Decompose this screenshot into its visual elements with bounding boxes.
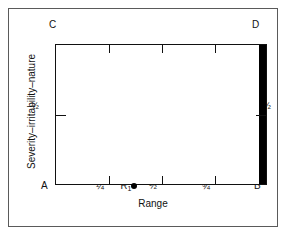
r1-marker-dot [131,183,137,189]
plot-area [55,44,267,185]
corner-label-d: D [252,20,259,30]
tick-top-half [162,45,163,53]
y-tick-label-left-half: ½ [31,101,39,111]
tick-top-three-quarter [215,45,216,53]
y-axis-title: Severity–irritability–nature [27,54,37,169]
tick-top-quarter [109,45,110,53]
tick-left-half [56,115,66,116]
tick-bottom-three-quarter [215,176,216,184]
tick-right-half [256,115,266,116]
x-axis-title: Range [138,199,167,209]
tick-bottom-half [162,176,163,184]
corner-label-c: C [49,20,56,30]
corner-label-a: A [41,181,48,191]
tick-bottom-quarter [109,176,110,184]
figure-outer-border: Severity–irritability–nature C D A B ½ ½… [8,8,278,227]
figure-container: Severity–irritability–nature C D A B ½ ½… [0,0,288,236]
